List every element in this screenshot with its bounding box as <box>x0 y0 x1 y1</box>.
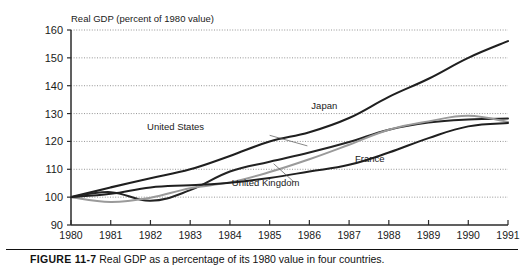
y-tick-label-100: 100 <box>45 191 63 203</box>
x-tick-label-1984: 1984 <box>218 229 242 241</box>
chart-axis-title: Real GDP (percent of 1980 value) <box>71 13 214 24</box>
x-tick-label-1991: 1991 <box>496 229 520 241</box>
x-tick-label-1988: 1988 <box>377 229 401 241</box>
y-tick-label-150: 150 <box>45 52 63 64</box>
caption-divider <box>6 249 518 250</box>
y-tick-label-130: 130 <box>45 108 63 120</box>
plot-area: 90100110120130140150160 1980198119821983… <box>45 13 520 241</box>
y-tick-label-140: 140 <box>45 80 63 92</box>
x-axis-ticks: 1980198119821983198419851986198719881989… <box>59 220 520 241</box>
y-tick-label-110: 110 <box>45 163 63 175</box>
series-label-france: France <box>355 153 385 164</box>
y-tick-label-160: 160 <box>45 24 63 36</box>
y-axis-ticks: 90100110120130140150160 <box>45 24 71 231</box>
x-tick-label-1989: 1989 <box>417 229 441 241</box>
x-tick-label-1990: 1990 <box>457 229 481 241</box>
x-tick-label-1982: 1982 <box>139 229 163 241</box>
x-tick-label-1980: 1980 <box>59 229 83 241</box>
figure-11-7: 90100110120130140150160 1980198119821983… <box>0 0 524 272</box>
x-tick-label-1985: 1985 <box>258 229 282 241</box>
series-label-japan: Japan <box>311 100 337 111</box>
figure-caption: FIGURE 11-7 Real GDP as a percentage of … <box>30 253 384 265</box>
x-tick-label-1983: 1983 <box>179 229 203 241</box>
figure-number: FIGURE 11-7 <box>30 253 96 265</box>
x-tick-label-1986: 1986 <box>298 229 322 241</box>
x-tick-label-1987: 1987 <box>337 229 361 241</box>
y-tick-label-120: 120 <box>45 135 63 147</box>
x-tick-label-1981: 1981 <box>99 229 123 241</box>
series-label-united-kingdom: United Kingdom <box>232 177 300 188</box>
figure-caption-text: Real GDP as a percentage of its 1980 val… <box>99 253 384 265</box>
gridlines <box>71 30 508 197</box>
series-label-united-states: United States <box>147 121 204 132</box>
